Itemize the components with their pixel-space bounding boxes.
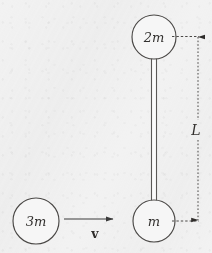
velocity-arrow: v bbox=[64, 219, 113, 241]
incoming-mass-body: 3m bbox=[13, 198, 59, 244]
velocity-arrow-label: v bbox=[90, 226, 99, 241]
length-dimension-label: L bbox=[190, 122, 200, 138]
physics-figure: 2m m 3m v L bbox=[0, 0, 212, 253]
lower-mass-label: m bbox=[148, 214, 160, 229]
length-dimension: L bbox=[172, 37, 201, 222]
upper-mass-body: 2m bbox=[132, 15, 176, 59]
connecting-rod bbox=[151, 50, 157, 225]
lower-mass-body: m bbox=[133, 200, 175, 242]
incoming-mass-label: 3m bbox=[26, 214, 47, 229]
upper-mass-label: 2m bbox=[143, 30, 165, 45]
figure-canvas: 2m m 3m v L bbox=[0, 0, 212, 253]
